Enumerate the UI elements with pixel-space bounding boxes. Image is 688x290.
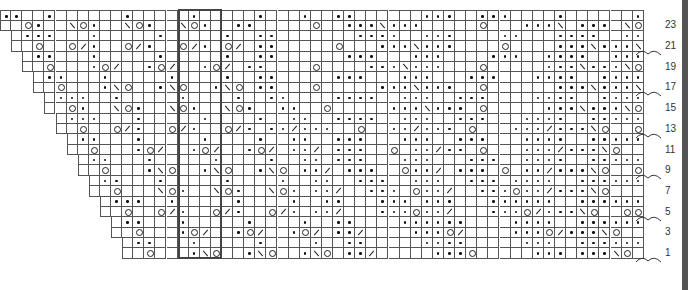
dot-icon (355, 155, 366, 166)
knit-cell (488, 134, 499, 145)
knit-cell (377, 227, 388, 238)
yo-icon (167, 165, 178, 176)
yo-icon (111, 124, 122, 135)
row-number-17: 17 (665, 81, 676, 92)
k2tog-icon (544, 186, 555, 197)
knit-cell (100, 103, 111, 114)
knit-cell (300, 51, 311, 62)
knit-cell (155, 227, 166, 238)
knit-cell (56, 41, 67, 52)
yo-icon (155, 62, 166, 73)
dot-icon (389, 207, 400, 218)
dot-icon (455, 248, 466, 259)
knit-cell (322, 155, 333, 166)
dot-icon (444, 238, 455, 249)
knit-cell (244, 82, 255, 93)
bracket-icon (636, 125, 662, 133)
dot-icon (522, 155, 533, 166)
ssk-icon (411, 41, 422, 52)
knit-cell (222, 93, 233, 104)
knit-cell (488, 62, 499, 73)
ssk-icon (611, 248, 622, 259)
knit-cell (233, 31, 244, 42)
dot-icon (555, 72, 566, 83)
dot-icon (599, 155, 610, 166)
yo-icon (78, 20, 89, 31)
knit-cell (466, 207, 477, 218)
dot-icon (533, 227, 544, 238)
dot-icon (633, 10, 644, 21)
dot-icon (89, 41, 100, 52)
knit-cell (400, 51, 411, 62)
dot-icon (355, 51, 366, 62)
knit-cell (411, 10, 422, 21)
dot-icon (622, 114, 633, 125)
knit-cell (244, 10, 255, 21)
knit-cell (155, 134, 166, 145)
knit-cell (389, 165, 400, 176)
knit-cell (300, 238, 311, 249)
dot-icon (633, 114, 644, 125)
knit-cell (611, 124, 622, 135)
dot-icon (566, 41, 577, 52)
dot-icon (11, 10, 22, 21)
dot-icon (466, 114, 477, 125)
knit-cell (244, 51, 255, 62)
knit-cell (278, 114, 289, 125)
knit-cell (167, 114, 178, 125)
dot-icon (599, 93, 610, 104)
dot-icon (522, 196, 533, 207)
yo-icon (633, 103, 644, 114)
row-number-1: 1 (665, 247, 671, 258)
k2tog-icon (289, 124, 300, 135)
ssk-icon (67, 20, 78, 31)
knit-cell (500, 238, 511, 249)
dot-icon (311, 124, 322, 135)
knit-cell (322, 72, 333, 83)
yo-icon (511, 186, 522, 197)
knit-cell (133, 93, 144, 104)
dot-icon (344, 10, 355, 21)
dot-icon (433, 31, 444, 42)
knit-cell (322, 62, 333, 73)
knit-cell (144, 176, 155, 187)
knit-cell (167, 31, 178, 42)
dot-icon (466, 176, 477, 187)
dot-icon (599, 114, 610, 125)
ssk-icon (167, 103, 178, 114)
dot-icon (144, 20, 155, 31)
knit-cell (89, 10, 100, 21)
dot-icon (611, 217, 622, 228)
k2tog-icon (411, 124, 422, 135)
knit-cell (244, 72, 255, 83)
dot-icon (422, 82, 433, 93)
dot-icon (422, 72, 433, 83)
knit-cell (266, 176, 277, 187)
yo-icon (322, 103, 333, 114)
knit-cell (555, 196, 566, 207)
dot-icon (611, 51, 622, 62)
dot-icon (411, 134, 422, 145)
dot-icon (588, 176, 599, 187)
knit-cell (522, 103, 533, 114)
knit-cell (266, 196, 277, 207)
knit-cell (555, 238, 566, 249)
dot-icon (244, 217, 255, 228)
knit-cell (366, 196, 377, 207)
dot-icon (266, 124, 277, 135)
yo-icon (500, 41, 511, 52)
dot-icon (488, 10, 499, 21)
dot-icon (344, 238, 355, 249)
knit-cell (111, 41, 122, 52)
dot-icon (266, 72, 277, 83)
knit-cell (488, 217, 499, 228)
dot-icon (44, 72, 55, 83)
dot-icon (44, 51, 55, 62)
knit-cell (411, 196, 422, 207)
knit-cell (78, 51, 89, 62)
knit-cell (133, 176, 144, 187)
yo-icon (100, 165, 111, 176)
knit-cell (455, 41, 466, 52)
knit-cell (244, 196, 255, 207)
knit-cell (577, 10, 588, 21)
